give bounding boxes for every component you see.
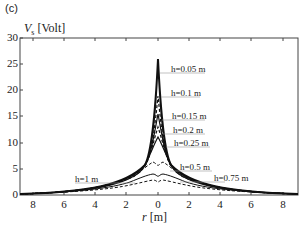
curve-h05	[20, 162, 298, 194]
x-tick-label: 2	[182, 198, 196, 210]
annotation-h075: h=0.75 m	[214, 173, 249, 183]
x-tick-label: 2	[119, 198, 133, 210]
y-tick-label: 5	[2, 162, 18, 174]
y-tick-label: 20	[2, 83, 18, 95]
x-axis-label: r [m]	[142, 210, 167, 225]
curves	[20, 59, 298, 194]
curve-h005	[20, 59, 298, 194]
x-axis-unit: [m]	[147, 210, 167, 224]
x-tick-label: 4	[88, 198, 102, 210]
y-tick-label: 25	[2, 57, 18, 69]
annotation-h1: h=1 m	[75, 174, 98, 184]
annotation-h005: h=0.05 m	[171, 64, 206, 74]
curve-h02	[20, 127, 298, 194]
x-tick-label: 8	[26, 198, 40, 210]
annotation-h02: h=0.2 m	[173, 125, 203, 135]
y-tick-label: 30	[2, 31, 18, 43]
x-tick-label: 0	[151, 198, 165, 210]
y-tick-label: 0	[2, 188, 18, 200]
plot-area	[0, 0, 303, 225]
x-tick-label: 4	[213, 198, 227, 210]
x-tick-label: 8	[276, 198, 290, 210]
curve-h01	[20, 96, 298, 194]
x-tick-label: 6	[57, 198, 71, 210]
y-tick-label: 15	[2, 109, 18, 121]
annotation-h05: h=0.5 m	[180, 162, 210, 172]
annotation-h01: h=0.1 m	[171, 88, 201, 98]
y-tick-label: 10	[2, 136, 18, 148]
curve-h025	[20, 137, 298, 194]
x-tick-label: 6	[244, 198, 258, 210]
annotation-h025: h=0.25 m	[174, 138, 209, 148]
annotation-h015: h=0.15 m	[172, 111, 207, 121]
